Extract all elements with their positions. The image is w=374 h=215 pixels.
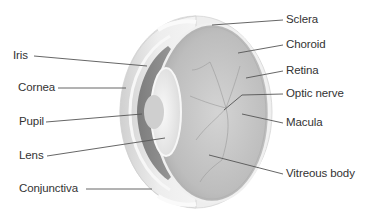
eyeball: [120, 16, 272, 208]
label-pupil: Pupil: [19, 115, 44, 128]
leader-iris: [34, 56, 147, 66]
label-conjunctiva: Conjunctiva: [19, 182, 78, 195]
label-choroid: Choroid: [286, 38, 326, 51]
pupil-shape: [144, 95, 164, 129]
label-macula: Macula: [286, 116, 322, 129]
label-iris: Iris: [13, 49, 28, 62]
label-vitreous-body: Vitreous body: [286, 167, 355, 180]
label-lens: Lens: [19, 149, 44, 162]
label-retina: Retina: [286, 64, 319, 77]
label-cornea: Cornea: [18, 81, 55, 94]
label-optic-nerve: Optic nerve: [286, 87, 344, 100]
label-sclera: Sclera: [286, 13, 318, 26]
